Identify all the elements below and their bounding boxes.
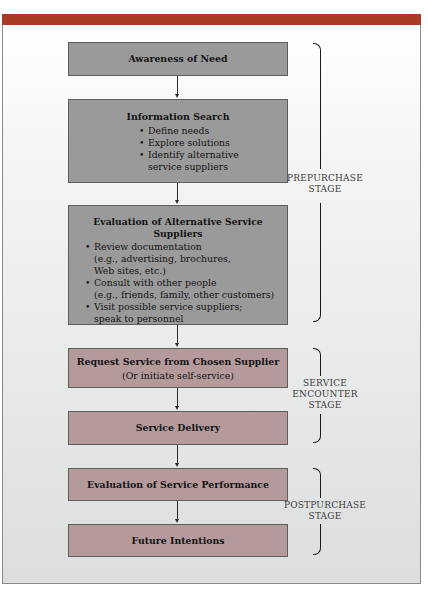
evaluation-alternatives-title: Evaluation of Alternative Service Suppli… [69,216,287,240]
information-search-box: Information Search Define needs Explore … [68,99,288,183]
bullet-item: Review documentation (e.g., advertising,… [85,241,287,277]
bullet-text: Identify alternative service suppliers [148,149,239,172]
postpurchase-bracket-lower [313,524,321,555]
service-encounter-bracket-lower [313,414,321,443]
bullet-line: Review documentation [94,241,287,253]
evaluation-performance-title: Evaluation of Service Performance [69,479,287,491]
bullet-line: Web sites, etc.) [94,265,287,277]
postpurchase-stage-label: POSTPURCHASE STAGE [280,500,370,522]
bullet-item: Identify alternative service suppliers [139,149,249,173]
service-encounter-stage-label: SERVICE ENCOUNTER STAGE [284,378,366,411]
awareness-title: Awareness of Need [69,53,287,65]
request-service-title: Request Service from Chosen Supplier [69,356,287,368]
stage-label-line: SERVICE [284,378,366,389]
connector-line [177,388,178,407]
arrow-down-icon [175,343,179,347]
future-intentions-box: Future Intentions [68,524,288,557]
stage-label-line: STAGE [284,400,366,411]
evaluation-performance-box: Evaluation of Service Performance [68,468,288,501]
prepurchase-bracket-upper [313,43,321,169]
stage-label-line: STAGE [284,184,366,195]
bullet-item: Explore solutions [139,137,287,149]
connector-line [177,501,178,520]
bullet-item: Consult with other people (e.g., friends… [85,277,287,301]
prepurchase-bracket-lower [313,203,321,322]
bullet-line: speak to personnel [94,313,287,325]
service-delivery-title: Service Delivery [69,422,287,434]
bullet-line: (e.g., friends, family, other customers) [94,289,287,301]
arrow-down-icon [175,200,179,204]
future-intentions-title: Future Intentions [69,535,287,547]
arrow-down-icon [175,94,179,98]
service-delivery-box: Service Delivery [68,411,288,445]
evaluation-alternatives-bullets: Review documentation (e.g., advertising,… [85,241,287,325]
arrow-down-icon [175,463,179,467]
awareness-of-need-box: Awareness of Need [68,42,288,76]
bullet-line: Consult with other people [94,277,287,289]
bullet-line: (e.g., advertising, brochures, [94,253,287,265]
connector-line [177,445,178,464]
bullet-line: Visit possible service suppliers; [94,301,287,313]
service-encounter-bracket-upper [313,348,321,376]
connector-line [177,325,178,344]
request-service-box: Request Service from Chosen Supplier (Or… [68,348,288,388]
postpurchase-bracket-upper [313,468,321,498]
stage-label-line: STAGE [280,511,370,522]
prepurchase-stage-label: PREPURCHASE STAGE [284,173,366,195]
information-search-title: Information Search [69,111,287,123]
bullet-item: Visit possible service suppliers; speak … [85,301,287,325]
bullet-item: Define needs [139,125,287,137]
arrow-down-icon [175,519,179,523]
page-top-margin [0,0,428,14]
information-search-bullets: Define needs Explore solutions Identify … [139,125,287,173]
request-service-subtitle: (Or initiate self-service) [69,370,287,382]
header-accent-bar [2,14,421,25]
arrow-down-icon [175,406,179,410]
evaluation-alternatives-box: Evaluation of Alternative Service Suppli… [68,205,288,325]
connector-line [177,183,178,201]
connector-line [177,76,178,95]
stage-label-line: PREPURCHASE [284,173,366,184]
stage-label-line: ENCOUNTER [284,389,366,400]
stage-label-line: POSTPURCHASE [280,500,370,511]
